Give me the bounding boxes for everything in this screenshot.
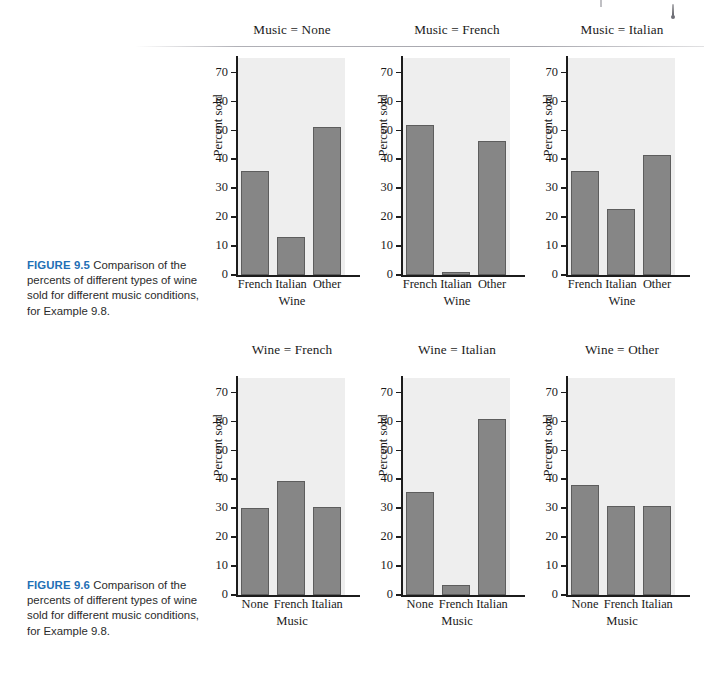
y-axis-tick: 60 bbox=[561, 101, 567, 103]
x-axis-label: Music bbox=[206, 614, 378, 629]
y-axis-label: Percent sold bbox=[376, 66, 391, 186]
y-axis-tick-label: 0 bbox=[387, 588, 393, 600]
y-axis-line bbox=[401, 376, 403, 597]
x-axis-label: Music bbox=[536, 614, 704, 629]
x-axis-tick-label: Other bbox=[478, 278, 506, 291]
bar bbox=[571, 485, 599, 595]
y-axis-tick: 50 bbox=[561, 450, 567, 452]
y-axis-tick: 70 bbox=[561, 72, 567, 74]
bar bbox=[478, 141, 506, 275]
y-axis-tick: 10 bbox=[396, 565, 402, 567]
bar bbox=[442, 585, 470, 595]
y-axis-tick-label: 0 bbox=[387, 268, 393, 280]
y-axis-tick: 60 bbox=[396, 101, 402, 103]
y-axis-tick: 70 bbox=[231, 392, 237, 394]
x-axis-tick-label: French bbox=[604, 598, 638, 611]
y-axis-label: Percent sold bbox=[211, 66, 226, 186]
y-axis-tick: 40 bbox=[396, 158, 402, 160]
y-axis-tick-label: 20 bbox=[216, 530, 228, 542]
panel-title: Wine = Other bbox=[536, 342, 704, 358]
chart-panel: Wine = Other010203040506070Percent soldN… bbox=[536, 342, 704, 642]
y-axis-tick-label: 10 bbox=[546, 559, 558, 571]
bar bbox=[607, 506, 635, 595]
bar bbox=[571, 171, 599, 275]
y-axis-tick-label: 10 bbox=[546, 239, 558, 251]
x-axis-tick-label: Italian bbox=[311, 598, 343, 611]
figure-9-6-caption: FIGURE 9.6 Comparison of the percents of… bbox=[27, 578, 205, 639]
y-axis-label: Percent sold bbox=[211, 386, 226, 506]
y-axis-tick: 20 bbox=[396, 216, 402, 218]
bar bbox=[406, 492, 434, 595]
y-axis-line bbox=[566, 56, 568, 277]
y-axis-tick-label: 20 bbox=[216, 210, 228, 222]
y-axis-tick: 0 bbox=[561, 274, 567, 276]
y-axis-label: Percent sold bbox=[541, 386, 556, 506]
scan-artifact-mark bbox=[672, 4, 674, 16]
y-axis-tick: 60 bbox=[396, 421, 402, 423]
y-axis-tick: 50 bbox=[561, 130, 567, 132]
bar bbox=[478, 419, 506, 595]
bar bbox=[442, 272, 470, 275]
y-axis-tick-label: 10 bbox=[381, 559, 393, 571]
y-axis-label: Percent sold bbox=[541, 66, 556, 186]
y-axis-tick: 60 bbox=[231, 421, 237, 423]
y-axis-tick: 30 bbox=[231, 187, 237, 189]
figure-9-5-caption-label: FIGURE 9.5 bbox=[27, 259, 90, 271]
y-axis-label: Percent sold bbox=[376, 386, 391, 506]
bar bbox=[607, 209, 635, 275]
y-axis-tick-label: 20 bbox=[381, 530, 393, 542]
bar bbox=[313, 127, 341, 275]
y-axis-line bbox=[236, 56, 238, 277]
y-axis-tick: 0 bbox=[231, 594, 237, 596]
y-axis-tick: 50 bbox=[231, 130, 237, 132]
x-axis-tick-label: Italian bbox=[275, 278, 307, 291]
y-axis-tick: 70 bbox=[231, 72, 237, 74]
x-axis-label: Wine bbox=[371, 294, 543, 309]
chart-panel: Music = None010203040506070Percent soldF… bbox=[206, 22, 378, 322]
y-axis-tick: 30 bbox=[561, 187, 567, 189]
y-axis-tick-label: 10 bbox=[381, 239, 393, 251]
y-axis-tick: 40 bbox=[231, 158, 237, 160]
y-axis-tick: 0 bbox=[396, 274, 402, 276]
y-axis-tick-label: 10 bbox=[216, 239, 228, 251]
y-axis-tick: 20 bbox=[231, 536, 237, 538]
bar bbox=[643, 155, 671, 275]
y-axis-tick: 70 bbox=[396, 72, 402, 74]
chart-panel: Wine = French010203040506070Percent sold… bbox=[206, 342, 378, 642]
y-axis-tick: 10 bbox=[396, 245, 402, 247]
y-axis-line bbox=[401, 56, 403, 277]
y-axis-tick: 10 bbox=[561, 245, 567, 247]
x-axis-tick-label: French bbox=[403, 278, 437, 291]
x-axis-tick-label: Italian bbox=[641, 598, 673, 611]
y-axis-tick-label: 20 bbox=[381, 210, 393, 222]
y-axis-tick: 10 bbox=[231, 245, 237, 247]
y-axis-tick: 20 bbox=[231, 216, 237, 218]
panel-title: Wine = French bbox=[206, 342, 378, 358]
y-axis-tick: 20 bbox=[396, 536, 402, 538]
x-axis-tick-label: French bbox=[439, 598, 473, 611]
bar bbox=[406, 125, 434, 275]
y-axis-tick: 40 bbox=[396, 478, 402, 480]
x-axis-tick-label: French bbox=[238, 278, 272, 291]
y-axis-tick: 10 bbox=[561, 565, 567, 567]
y-axis-tick: 50 bbox=[396, 450, 402, 452]
y-axis-tick: 30 bbox=[561, 507, 567, 509]
panel-title: Music = None bbox=[206, 22, 378, 38]
y-axis-line bbox=[236, 376, 238, 597]
y-axis-tick: 50 bbox=[231, 450, 237, 452]
y-axis-tick: 30 bbox=[396, 187, 402, 189]
panel-title: Wine = Italian bbox=[371, 342, 543, 358]
y-axis-tick: 0 bbox=[396, 594, 402, 596]
figure-9-5-caption: FIGURE 9.5 Comparison of the percents of… bbox=[27, 258, 205, 319]
x-axis-label: Wine bbox=[206, 294, 378, 309]
x-axis-tick-label: Other bbox=[643, 278, 671, 291]
x-axis-tick-label: None bbox=[572, 598, 599, 611]
x-axis-tick-label: French bbox=[274, 598, 308, 611]
y-axis-tick: 10 bbox=[231, 565, 237, 567]
y-axis-tick-label: 0 bbox=[552, 588, 558, 600]
y-axis-line bbox=[566, 376, 568, 597]
x-axis-tick-label: None bbox=[242, 598, 269, 611]
y-axis-tick: 40 bbox=[561, 158, 567, 160]
x-axis-label: Wine bbox=[536, 294, 704, 309]
y-axis-tick: 50 bbox=[396, 130, 402, 132]
